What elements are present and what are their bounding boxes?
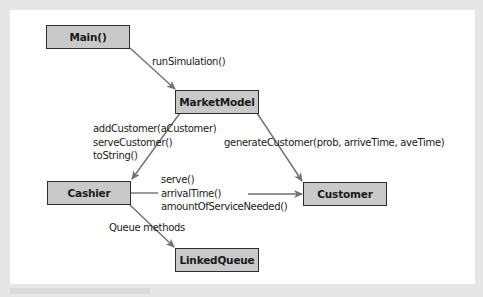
- edge-label-cashier-to-customer: serve() arrivalTime() amountOfServiceNee…: [161, 173, 287, 214]
- node-linkedqueue-label: LinkedQueue: [179, 254, 254, 266]
- node-main: Main(): [46, 25, 130, 49]
- cropped-caption: [10, 288, 150, 294]
- edge-label-queue-methods: Queue methods: [109, 221, 185, 235]
- node-cashier-label: Cashier: [67, 187, 110, 199]
- node-marketmodel: MarketModel: [175, 90, 259, 114]
- method-serve: serve(): [161, 173, 287, 187]
- method-amount-of-service-needed: amountOfServiceNeeded(): [161, 200, 287, 214]
- node-customer: Customer: [303, 182, 387, 206]
- node-marketmodel-label: MarketModel: [179, 96, 254, 108]
- method-to-string: toString(): [93, 149, 216, 163]
- node-linkedqueue: LinkedQueue: [175, 248, 259, 272]
- node-main-label: Main(): [69, 31, 106, 43]
- node-cashier: Cashier: [47, 181, 131, 205]
- method-arrival-time: arrivalTime(): [161, 187, 287, 201]
- edge-label-run-simulation: runSimulation(): [152, 55, 225, 69]
- node-customer-label: Customer: [317, 188, 372, 200]
- edge-label-generate-customer: generateCustomer(prob, arriveTime, aveTi…: [224, 136, 444, 150]
- edge-label-market-to-cashier: addCustomer(aCustomer) serveCustomer() t…: [93, 122, 216, 163]
- method-serve-customer: serveCustomer(): [93, 136, 216, 150]
- method-add-customer: addCustomer(aCustomer): [93, 122, 216, 136]
